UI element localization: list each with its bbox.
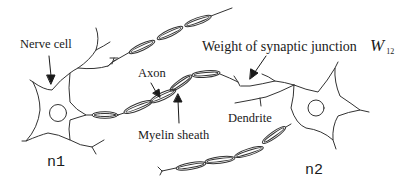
nucleus-n2 [308, 100, 324, 116]
nucleus-n1 [50, 105, 67, 122]
label-myelin-sheath: Myelin sheath [138, 129, 209, 142]
label-n1: n1 [47, 155, 65, 170]
weight-subscript: 12 [386, 47, 394, 56]
label-nerve-cell: Nerve cell [20, 38, 72, 51]
label-dendrite: Dendrite [228, 112, 272, 125]
arrow-axon [151, 83, 156, 92]
neuron-diagram: Nerve cell Axon Myelin sheath Dendrite W… [0, 0, 404, 187]
arrow-myelin [178, 100, 179, 123]
weight-symbol: W [370, 36, 384, 55]
label-n2: n2 [305, 163, 323, 178]
arrow-synapse [255, 56, 266, 72]
label-weight-symbol: W12 [370, 37, 394, 56]
label-synaptic-weight: Weight of synaptic junction [202, 40, 357, 54]
label-axon: Axon [138, 67, 166, 80]
arrow-nerve-cell [49, 56, 51, 76]
